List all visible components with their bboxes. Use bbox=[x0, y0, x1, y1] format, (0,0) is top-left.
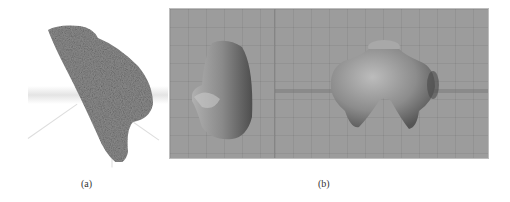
caption-a: (a) bbox=[81, 178, 92, 189]
stone-fragment bbox=[48, 24, 158, 162]
panel-b-3d-viewports bbox=[169, 8, 489, 159]
viewport-side[interactable] bbox=[170, 9, 275, 158]
torso-side-mesh bbox=[192, 37, 262, 147]
panel-a-photo bbox=[8, 8, 163, 163]
viewport-front[interactable] bbox=[275, 9, 488, 158]
torso-front-mesh bbox=[329, 39, 449, 139]
caption-b: (b) bbox=[318, 178, 330, 189]
